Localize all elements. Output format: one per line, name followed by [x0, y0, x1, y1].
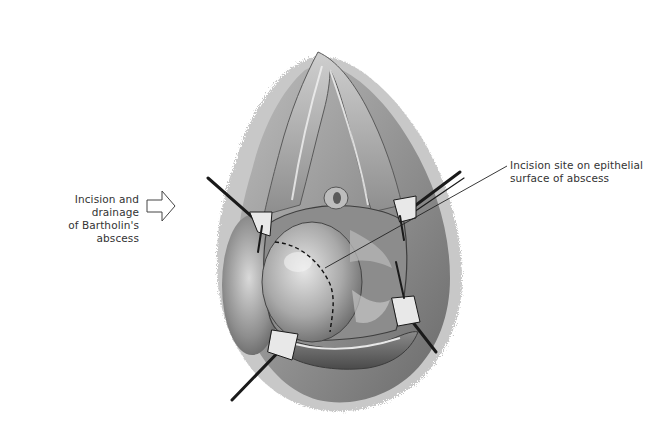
label-left-line2: of Bartholin's abscess	[31, 219, 139, 245]
label-incision-site: Incision site on epithelial surface of a…	[510, 159, 650, 185]
hollow-right-arrow-icon	[147, 191, 175, 221]
bartholin-abscess	[262, 222, 362, 342]
label-right-line2: surface of abscess	[510, 172, 650, 185]
label-right-line1: Incision site on epithelial	[510, 159, 650, 172]
urethral-meatus	[324, 187, 348, 209]
label-incision-and-drainage: Incision and drainage of Bartholin's abs…	[31, 193, 139, 245]
label-left-line1: Incision and drainage	[31, 193, 139, 219]
